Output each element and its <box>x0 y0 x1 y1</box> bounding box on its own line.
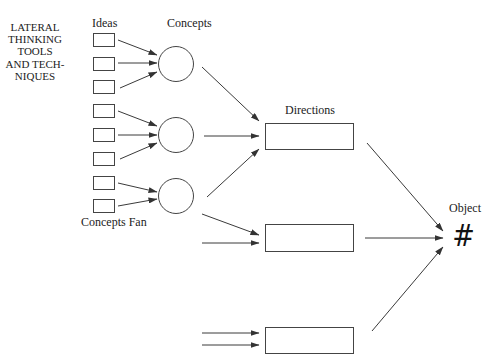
direction-box-2 <box>266 225 354 252</box>
idea-box-4 <box>94 105 115 118</box>
idea-boxes <box>94 34 115 213</box>
direction-box-3 <box>266 328 354 354</box>
arrow-concept-3-to-direction-1 <box>207 149 259 197</box>
idea-box-3 <box>94 81 115 94</box>
arrow-idea-4-to-concept-2 <box>118 111 157 126</box>
concept-circles <box>159 47 194 214</box>
arrow-direction-3-to-object <box>372 247 443 331</box>
arrow-idea-6-to-concept-2 <box>120 143 157 159</box>
direction-box-1 <box>266 124 354 150</box>
direction-boxes <box>266 124 354 354</box>
idea-box-6 <box>94 153 115 166</box>
arrow-idea-3-to-concept-1 <box>120 72 157 88</box>
idea-box-8 <box>94 200 115 213</box>
arrow-idea-1-to-concept-1 <box>118 40 157 55</box>
idea-box-5 <box>94 129 115 142</box>
idea-box-7 <box>94 177 115 190</box>
lateral-thinking-diagram: LATERAL THINKING TOOLS AND TECH- NIQUES … <box>0 0 496 361</box>
concept-circle-1 <box>159 47 194 82</box>
diagram-canvas <box>0 0 496 361</box>
arrow-concept-1-to-direction-1 <box>202 67 259 121</box>
concept-circle-3 <box>159 179 194 214</box>
idea-box-1 <box>94 34 115 47</box>
arrow-idea-8-to-concept-3 <box>118 199 157 206</box>
concept-circle-2 <box>159 118 194 153</box>
arrow-direction-1-to-object <box>367 143 443 231</box>
arrows <box>118 40 443 345</box>
arrow-concept-3-to-direction-2 <box>202 214 259 235</box>
arrow-idea-7-to-concept-3 <box>118 183 157 192</box>
idea-box-2 <box>94 58 115 71</box>
